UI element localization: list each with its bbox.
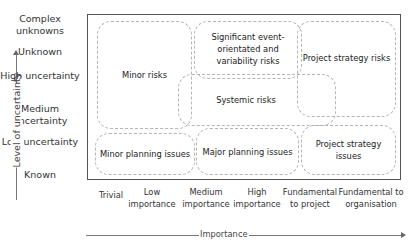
x-level-text: Fundamental to project (283, 187, 337, 209)
y-axis-label: Level of uncertainty (11, 84, 22, 168)
x-level-text: High importance (233, 187, 280, 209)
zone-project-strategy-risks: Project strategy risks (297, 21, 396, 117)
arrow-right-icon (401, 232, 406, 238)
zone-minor-planning-issues: Minor planning issues (95, 133, 195, 175)
x-level-text: Trivial (99, 190, 123, 200)
zone-label: Minor risks (122, 69, 167, 81)
x-level-high: High importance (233, 186, 281, 210)
y-axis-title: Level of uncertainty (10, 50, 22, 200)
x-level-fundamental-organisation: Fundamental to organisation (338, 186, 404, 210)
x-level-text: Low importance (128, 187, 175, 209)
y-level-text: Known (24, 169, 56, 180)
y-level-complex-unknowns: Complex unknowns (0, 13, 80, 37)
x-axis-title: Importance (0, 230, 417, 240)
x-level-text: Fundamental to organisation (338, 187, 403, 209)
zone-major-planning-issues: Major planning issues (196, 128, 299, 175)
x-level-medium: Medium importance (180, 186, 232, 210)
zone-label: Minor planning issues (100, 148, 190, 160)
y-level-text: Unknown (18, 46, 62, 57)
zone-label: Systemic risks (216, 94, 276, 106)
x-axis-label: Importance (199, 229, 249, 239)
x-level-low: Low importance (128, 186, 176, 210)
x-level-text: Medium importance (182, 187, 229, 209)
x-level-trivial: Trivial (93, 189, 129, 201)
zone-project-strategy-issues: Project strategy issues (301, 125, 396, 175)
zone-label: Significant event-orientated and variabi… (200, 31, 296, 67)
zone-label: Project strategy issues (302, 138, 395, 162)
y-level-text: Complex unknowns (16, 13, 64, 36)
zone-label: Major planning issues (203, 146, 293, 158)
x-level-fundamental-project: Fundamental to project (282, 186, 338, 210)
zone-label: Project strategy risks (303, 52, 390, 64)
zone-significant-risks: Significant event-orientated and variabi… (194, 21, 302, 79)
